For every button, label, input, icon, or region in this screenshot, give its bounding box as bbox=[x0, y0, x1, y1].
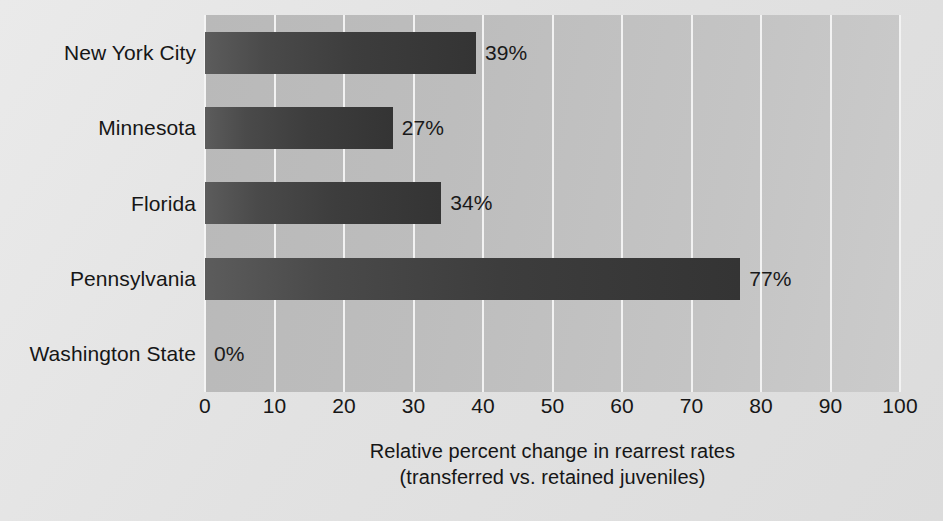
bar[interactable] bbox=[205, 107, 393, 149]
bar-chart-figure: 39%27%34%77%0% New York CityMinnesotaFlo… bbox=[0, 0, 943, 521]
bar-row: 39% bbox=[205, 15, 900, 90]
x-tick-label-80: 80 bbox=[749, 394, 773, 418]
category-label: Minnesota bbox=[0, 116, 196, 140]
plot-area: 39%27%34%77%0% bbox=[205, 15, 900, 392]
bar-value-label: 77% bbox=[749, 267, 791, 291]
x-tick-label-90: 90 bbox=[819, 394, 843, 418]
x-axis-title-line-1: Relative percent change in rearrest rate… bbox=[205, 438, 900, 464]
x-tick-label-100: 100 bbox=[882, 394, 917, 418]
category-axis: New York CityMinnesotaFloridaPennsylvani… bbox=[0, 15, 196, 392]
x-tick-label-60: 60 bbox=[610, 394, 634, 418]
bars-layer: 39%27%34%77%0% bbox=[205, 15, 900, 392]
category-label: Florida bbox=[0, 192, 196, 216]
category-label: Washington State bbox=[0, 342, 196, 366]
x-tick-label-70: 70 bbox=[680, 394, 704, 418]
bar-row: 0% bbox=[205, 317, 900, 392]
x-axis-title-line-2: (transferred vs. retained juveniles) bbox=[205, 464, 900, 490]
bar-value-label: 34% bbox=[450, 191, 492, 215]
x-tick-label-30: 30 bbox=[402, 394, 426, 418]
x-tick-label-50: 50 bbox=[541, 394, 565, 418]
x-tick-label-20: 20 bbox=[332, 394, 356, 418]
x-axis-ticks: 0102030405060708090100 bbox=[205, 394, 900, 424]
bar[interactable] bbox=[205, 32, 476, 74]
bar-value-label: 39% bbox=[485, 41, 527, 65]
x-tick-label-10: 10 bbox=[263, 394, 287, 418]
bar-row: 77% bbox=[205, 241, 900, 316]
bar-row: 27% bbox=[205, 90, 900, 165]
x-tick-label-0: 0 bbox=[199, 394, 211, 418]
bar[interactable] bbox=[205, 258, 740, 300]
x-tick-label-40: 40 bbox=[471, 394, 495, 418]
bar[interactable] bbox=[205, 182, 441, 224]
x-axis-title: Relative percent change in rearrest rate… bbox=[205, 438, 900, 490]
bar-value-label: 27% bbox=[402, 116, 444, 140]
bar-value-label: 0% bbox=[214, 342, 245, 366]
category-label: Pennsylvania bbox=[0, 267, 196, 291]
category-label: New York City bbox=[0, 41, 196, 65]
bar-row: 34% bbox=[205, 166, 900, 241]
